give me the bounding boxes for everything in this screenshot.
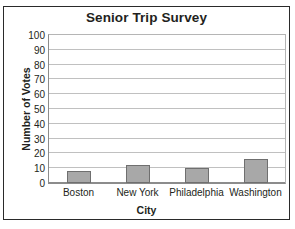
bar-washington[interactable] [244, 159, 268, 183]
chart-figure-frame: Senior Trip Survey Number of Votes 01020… [3, 6, 290, 220]
bar-philadelphia[interactable] [185, 168, 209, 183]
x-axis-tick-label: Philadelphia [169, 187, 224, 198]
y-axis-title: Number of Votes [20, 49, 32, 169]
y-axis-tick-label: 70 [34, 74, 45, 85]
bar-slot [226, 35, 285, 183]
y-axis-tick-label: 100 [28, 30, 45, 41]
x-axis-tick-label: New York [116, 187, 158, 198]
bar-slot [108, 35, 167, 183]
bars-group [49, 35, 285, 183]
y-axis-tick-label: 0 [39, 178, 45, 189]
bar-slot [167, 35, 226, 183]
chart-title: Senior Trip Survey [4, 10, 289, 25]
y-axis-tick-label: 80 [34, 59, 45, 70]
x-axis-tick-label: Boston [63, 187, 94, 198]
bar-new-york[interactable] [126, 165, 150, 183]
y-axis-tick-label: 60 [34, 89, 45, 100]
x-axis-title: City [4, 204, 289, 216]
y-axis-tick-label: 90 [34, 44, 45, 55]
y-axis-tick-label: 10 [34, 163, 45, 174]
x-axis-tick-label: Washington [229, 187, 281, 198]
chart-screenshot: Senior Trip Survey Number of Votes 01020… [0, 0, 295, 229]
y-axis-tick-label: 50 [34, 104, 45, 115]
plot-area: 0102030405060708090100 BostonNew YorkPhi… [48, 34, 286, 184]
bar-boston[interactable] [67, 171, 91, 183]
y-axis-tick-label: 30 [34, 133, 45, 144]
y-axis-tick-label: 20 [34, 148, 45, 159]
bar-slot [49, 35, 108, 183]
y-axis-tick-label: 40 [34, 118, 45, 129]
